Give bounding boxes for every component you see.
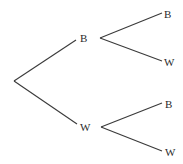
node-label-level2-WW: W <box>165 146 176 158</box>
edge-B-to-W <box>100 38 162 61</box>
tree-diagram: B W B W B W <box>0 0 183 164</box>
edge-W-to-B <box>101 103 162 127</box>
node-label-level2-BB: B <box>164 8 171 20</box>
node-label-level2-BW: W <box>164 56 175 68</box>
edge-root-to-B <box>14 40 76 81</box>
node-label-level1-W: W <box>80 121 91 133</box>
node-label-level2-WB: B <box>165 98 172 110</box>
edge-root-to-W <box>14 81 77 124</box>
edge-B-to-B <box>100 13 162 38</box>
node-label-level1-B: B <box>80 32 87 44</box>
edge-W-to-W <box>101 127 162 151</box>
